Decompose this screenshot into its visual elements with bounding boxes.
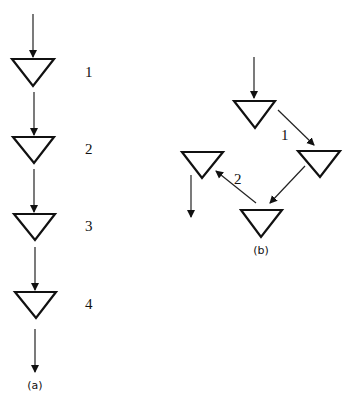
triangle-a-3 <box>14 214 55 240</box>
caption-b: (b) <box>253 244 269 257</box>
arrow-b-right-bottom <box>270 166 305 203</box>
triangle-b-right <box>298 151 340 177</box>
triangle-b-bottom <box>241 210 282 237</box>
triangle-a-1 <box>12 59 54 86</box>
triangle-b-top <box>234 101 275 128</box>
diagram-canvas: 1 2 3 4 (a) 1 2 (b) <box>0 0 351 403</box>
panel-a: 1 2 3 4 (a) <box>12 14 93 392</box>
label-a-4: 4 <box>85 296 93 312</box>
label-a-2: 2 <box>85 141 93 157</box>
triangle-b-left <box>182 152 223 178</box>
label-b-2: 2 <box>234 171 242 187</box>
label-a-3: 3 <box>85 218 93 234</box>
triangle-a-2 <box>13 137 54 163</box>
triangle-a-4 <box>15 292 56 318</box>
label-b-1: 1 <box>281 127 289 143</box>
label-a-1: 1 <box>85 64 93 80</box>
caption-a: (a) <box>27 379 42 392</box>
panel-b: 1 2 (b) <box>182 57 340 257</box>
